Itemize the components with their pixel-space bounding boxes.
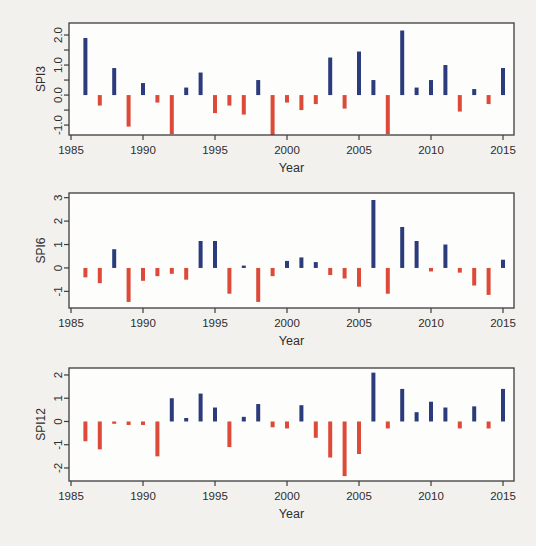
y-tick-label: 0.0 xyxy=(52,87,64,103)
spi-drought-index-figure: 2.01.00.0-1.0198519901995200020052010201… xyxy=(0,0,536,546)
y-tick-label: 1 xyxy=(52,395,64,401)
y-tick-label: 2 xyxy=(52,218,64,224)
x-tick-label: 2005 xyxy=(346,144,372,156)
panel-spi3: 2.01.00.0-1.0198519901995200020052010201… xyxy=(34,23,516,175)
x-tick-label: 2010 xyxy=(418,317,444,329)
y-tick-label: -1.0 xyxy=(52,115,64,135)
x-axis-title: Year xyxy=(279,507,304,521)
panel-spi12: 210-1-21985199019952000200520102015YearS… xyxy=(34,368,516,521)
x-tick-label: 2000 xyxy=(274,490,300,502)
x-tick-label: 2005 xyxy=(346,317,372,329)
x-tick-label: 2010 xyxy=(418,144,444,156)
y-tick-label: -2 xyxy=(52,463,64,473)
y-tick-label: 0 xyxy=(52,418,64,424)
x-tick-label: 2010 xyxy=(418,490,444,502)
x-tick-label: 1985 xyxy=(58,317,84,329)
x-tick-label: 2000 xyxy=(274,144,300,156)
y-tick-label: 2.0 xyxy=(52,27,64,43)
x-tick-label: 1990 xyxy=(130,490,156,502)
y-axis-title: SPI6 xyxy=(34,237,48,263)
y-tick-label: 1 xyxy=(52,241,64,247)
x-axis-title: Year xyxy=(279,334,304,348)
y-axis-title: SPI3 xyxy=(34,66,48,92)
spi-figure-svg: 2.01.00.0-1.0198519901995200020052010201… xyxy=(0,0,536,546)
x-tick-label: 2015 xyxy=(490,317,516,329)
x-tick-label: 1985 xyxy=(58,490,84,502)
y-tick-label: 1.0 xyxy=(52,57,64,73)
x-tick-label: 2000 xyxy=(274,317,300,329)
plot-area xyxy=(69,368,514,481)
y-tick-label: 0 xyxy=(52,265,64,271)
x-tick-label: 1995 xyxy=(202,317,228,329)
x-tick-label: 1985 xyxy=(58,144,84,156)
y-tick-label: 3 xyxy=(52,194,64,200)
y-tick-label: -1 xyxy=(52,286,64,296)
y-tick-label: 2 xyxy=(52,372,64,378)
x-tick-label: 1995 xyxy=(202,490,228,502)
x-tick-label: 1990 xyxy=(130,317,156,329)
x-axis-title: Year xyxy=(279,161,304,175)
x-tick-label: 2015 xyxy=(490,490,516,502)
y-tick-label: -1 xyxy=(52,440,64,450)
x-tick-label: 2005 xyxy=(346,490,372,502)
panel-spi6: 3210-11985199019952000200520102015YearSP… xyxy=(34,193,516,348)
x-tick-label: 1990 xyxy=(130,144,156,156)
y-axis-title: SPI12 xyxy=(34,408,48,441)
x-tick-label: 1995 xyxy=(202,144,228,156)
x-tick-label: 2015 xyxy=(490,144,516,156)
